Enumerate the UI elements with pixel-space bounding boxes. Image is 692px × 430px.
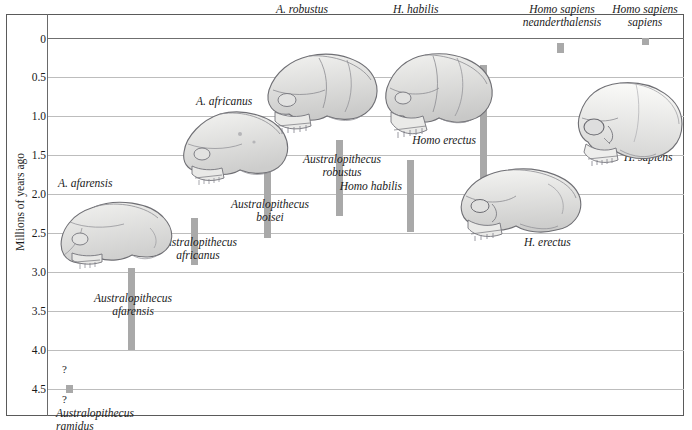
y-tick-0: 0 bbox=[0, 33, 46, 45]
figure-root: Millions of years ago 0 0.5 1.0 1.5 2.0 … bbox=[0, 0, 692, 430]
skull-illustration-sapiens bbox=[566, 80, 688, 178]
label-robustus-line2: robustus bbox=[296, 166, 388, 179]
y-tick-3-5: 3.5 bbox=[0, 305, 46, 317]
skull-illustration-afarensis bbox=[58, 198, 180, 290]
y-tick-0-5: 0.5 bbox=[0, 71, 46, 83]
skull-label-africanus: A. africanus bbox=[196, 95, 252, 108]
range-bar-neanderthalensis[interactable] bbox=[557, 43, 564, 53]
skull-label-robustus: A. robustus bbox=[276, 3, 328, 16]
skull-label-habilis: H. habilis bbox=[393, 3, 438, 16]
y-tick-2-0: 2.0 bbox=[0, 188, 46, 200]
label-robustus-line1: Australopithecus bbox=[296, 153, 388, 166]
label-afarensis-line2: afarensis bbox=[88, 305, 178, 318]
label-sapiens-sapiens-line2: sapiens bbox=[586, 16, 692, 29]
label-ramidus-line2: ramidus bbox=[56, 420, 94, 430]
y-tick-1-0: 1.0 bbox=[0, 110, 46, 122]
label-ramidus-line1: Australopithecus bbox=[56, 407, 134, 420]
y-tick-1-5: 1.5 bbox=[0, 149, 46, 161]
y-tick-4-5: 4.5 bbox=[0, 383, 46, 395]
y-tick-3-0: 3.0 bbox=[0, 266, 46, 278]
gridline-4-5 bbox=[48, 389, 684, 390]
label-sapiens-sapiens-line1: Homo sapiens bbox=[586, 3, 692, 16]
range-bar-ramidus[interactable] bbox=[66, 385, 73, 393]
y-tick-2-5: 2.5 bbox=[0, 227, 46, 239]
label-afarensis-line1: Australopithecus bbox=[88, 292, 178, 305]
label-boisei-line2: boisei bbox=[224, 211, 316, 224]
ramidus-question-bottom: ? bbox=[62, 393, 67, 405]
range-bar-habilis[interactable] bbox=[407, 160, 414, 232]
plot-area: ? ? Australopithecus ramidus Australopit… bbox=[48, 38, 684, 416]
y-axis-label-wrap: Millions of years ago bbox=[2, 0, 22, 430]
skull-illustration-robustus bbox=[263, 50, 385, 150]
skull-illustration-habilis bbox=[381, 50, 499, 154]
gridline-0 bbox=[48, 38, 684, 39]
ramidus-question-top: ? bbox=[62, 363, 67, 375]
skull-label-afarensis: A. afarensis bbox=[58, 177, 113, 190]
range-bar-sapiens-sapiens[interactable] bbox=[642, 38, 649, 45]
y-tick-4-0: 4.0 bbox=[0, 344, 46, 356]
skull-illustration-erectus bbox=[456, 166, 590, 252]
gridline-4-0 bbox=[48, 350, 684, 351]
label-habilis: Homo habilis bbox=[334, 180, 402, 193]
